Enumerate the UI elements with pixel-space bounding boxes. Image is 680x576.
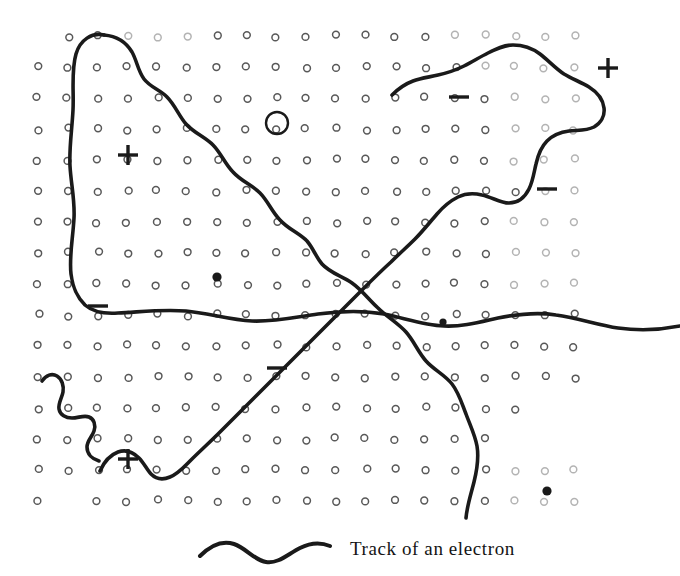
emulsion-grain <box>94 188 101 195</box>
emulsion-grain <box>393 63 400 70</box>
emulsion-grain <box>571 187 578 194</box>
emulsion-grain <box>542 34 549 41</box>
sample-track-swatch <box>200 543 330 563</box>
emulsion-grain <box>33 436 40 443</box>
emulsion-grain <box>333 403 340 410</box>
emulsion-grain <box>35 250 42 257</box>
emulsion-grain <box>392 497 399 504</box>
emulsion-grain <box>213 343 220 350</box>
emulsion-grain <box>421 497 428 504</box>
emulsion-grain <box>452 343 459 350</box>
emulsion-grain <box>154 219 161 226</box>
emulsion-grain <box>572 155 579 162</box>
emulsion-grain <box>422 280 429 287</box>
emulsion-grain <box>572 32 579 39</box>
emulsion-grain <box>333 31 340 38</box>
emulsion-grain <box>542 468 549 475</box>
emulsion-grain <box>393 281 400 288</box>
emulsion-grain <box>125 375 132 382</box>
emulsion-grain <box>571 279 578 286</box>
emulsion-grain <box>303 218 310 225</box>
emulsion-grain <box>124 127 131 134</box>
emulsion-grain <box>213 64 220 71</box>
grain-lattice-layer <box>33 31 579 505</box>
emulsion-grain <box>481 375 488 382</box>
emulsion-grain <box>64 437 71 444</box>
emulsion-grain <box>392 373 399 380</box>
emulsion-grain <box>510 218 517 225</box>
emulsion-grain <box>511 282 518 289</box>
emulsion-grain <box>512 125 519 132</box>
emulsion-grain <box>123 499 130 506</box>
emulsion-grain <box>362 155 369 162</box>
emulsion-grain <box>511 497 518 504</box>
emulsion-grain <box>451 498 458 505</box>
emulsion-grain <box>392 218 399 225</box>
emulsion-grain <box>243 32 250 39</box>
emulsion-grain <box>212 403 219 410</box>
caption-sample-curve <box>196 532 336 568</box>
emulsion-grain <box>451 279 458 286</box>
emulsion-grain <box>453 311 460 318</box>
emulsion-grain <box>273 249 280 256</box>
emulsion-grain <box>362 498 369 505</box>
emulsion-grain <box>272 465 279 472</box>
emulsion-grain <box>421 436 428 443</box>
emulsion-grain <box>184 95 191 102</box>
emulsion-grain <box>182 404 189 411</box>
electron-track-left-squiggle <box>42 375 99 461</box>
emulsion-grain <box>184 218 191 225</box>
emulsion-grain <box>273 497 280 504</box>
emulsion-grain <box>364 342 371 349</box>
emulsion-grain <box>153 63 160 70</box>
emulsion-grain <box>155 250 162 257</box>
emulsion-grain <box>213 126 220 133</box>
emulsion-grain <box>242 63 249 70</box>
emulsion-grain <box>423 403 430 410</box>
emulsion-grain <box>184 33 191 40</box>
emulsion-grain <box>93 156 100 163</box>
emulsion-plate <box>0 0 680 534</box>
plus-sign <box>598 58 618 78</box>
emulsion-grain <box>482 311 489 318</box>
emulsion-grain <box>540 65 547 72</box>
emulsion-grain <box>242 311 249 318</box>
emulsion-grain <box>214 32 221 39</box>
emulsion-grain <box>124 341 131 348</box>
emulsion-grain <box>214 499 221 506</box>
emulsion-grain <box>333 343 340 350</box>
emulsion-grain <box>452 125 459 132</box>
emulsion-grain <box>66 34 73 41</box>
emulsion-grain <box>452 31 459 38</box>
emulsion-grain <box>542 125 549 132</box>
emulsion-grain <box>420 157 427 164</box>
emulsion-grain <box>333 124 340 131</box>
emulsion-grain <box>214 374 221 381</box>
emulsion-grain <box>155 496 162 503</box>
emulsion-grain <box>451 220 458 227</box>
emulsion-grain <box>452 404 459 411</box>
large-open-grain <box>266 112 288 134</box>
emulsion-grain <box>541 343 548 350</box>
emulsion-grain <box>274 94 281 101</box>
emulsion-grain <box>512 468 519 475</box>
emulsion-grain <box>512 372 519 379</box>
plus-sign <box>118 145 138 165</box>
emulsion-grain <box>152 282 159 289</box>
emulsion-grain <box>35 187 42 194</box>
emulsion-grain <box>571 498 578 505</box>
emulsion-grain <box>332 189 339 196</box>
emulsion-grain <box>421 373 428 380</box>
emulsion-grain <box>511 93 518 100</box>
emulsion-grain <box>94 435 101 442</box>
emulsion-grain <box>303 249 310 256</box>
emulsion-grain <box>334 279 341 286</box>
emulsion-grain <box>185 313 192 320</box>
emulsion-grain <box>153 466 160 473</box>
emulsion-grain <box>34 498 41 505</box>
emulsion-grain <box>123 63 130 70</box>
emulsion-grain <box>421 93 428 100</box>
emulsion-grain <box>95 375 102 382</box>
emulsion-grain <box>273 157 280 164</box>
emulsion-grain <box>65 313 72 320</box>
